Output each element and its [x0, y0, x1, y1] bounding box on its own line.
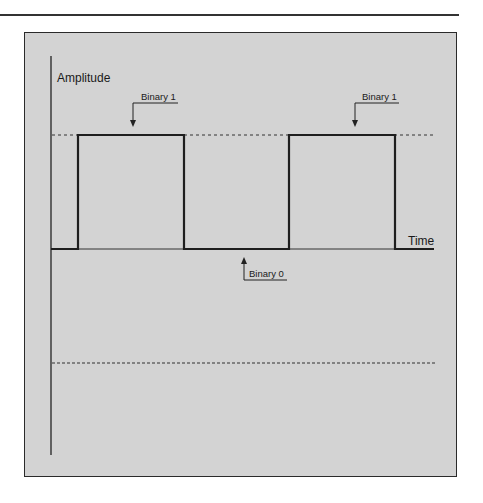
arrow-down-icon [130, 120, 136, 127]
binary-1-callout-second: Binary 1 [352, 91, 399, 127]
arrow-down-icon [352, 120, 358, 127]
binary-1-callout-first: Binary 1 [130, 91, 178, 127]
amplitude-label: Amplitude [57, 71, 111, 85]
binary-1-label: Binary 1 [141, 91, 176, 102]
square-wave-signal [51, 135, 434, 249]
binary-1-label: Binary 1 [362, 91, 397, 102]
arrow-up-icon [241, 257, 247, 264]
binary-0-callout: Binary 0 [241, 257, 287, 280]
time-label: Time [408, 234, 435, 248]
square-wave-diagram: Amplitude Time Binary 1 Binary 1 Binary … [0, 0, 483, 503]
binary-0-label: Binary 0 [249, 268, 284, 279]
